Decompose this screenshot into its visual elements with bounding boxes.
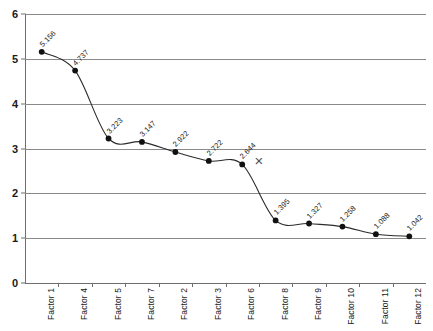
data-label: 3.223: [104, 115, 124, 135]
x-category-label: Factor 11: [380, 288, 390, 324]
x-category-label: Factor 5: [113, 288, 123, 320]
data-label: 3.147: [138, 119, 158, 139]
chart-overlay: 5.1564.7373.2233.1472.9222.7222.6441.395…: [0, 0, 433, 331]
data-label: 1.258: [338, 203, 358, 223]
x-category-label: Factor 3: [213, 288, 223, 320]
data-label: 1.395: [271, 197, 291, 217]
x-tick-mark: [125, 283, 126, 287]
x-tick-mark: [159, 283, 160, 287]
x-category-label: Factor 8: [280, 288, 290, 320]
x-category-label: Factor 10: [346, 288, 356, 325]
x-tick-mark: [393, 283, 394, 287]
x-tick-mark: [226, 283, 227, 287]
x-category-label: Factor 12: [413, 288, 423, 325]
x-category-label: Factor 6: [246, 288, 256, 320]
x-category-label: Factor 7: [146, 288, 156, 320]
x-category-label: Factor 2: [179, 288, 189, 320]
cutoff-x-mark: ×: [255, 153, 264, 168]
data-label: 2.922: [171, 129, 191, 149]
x-category-label: Factor 4: [79, 288, 89, 320]
x-tick-mark: [192, 283, 193, 287]
x-category-label: Factor 9: [313, 288, 323, 320]
x-tick-mark: [58, 283, 59, 287]
x-tick-mark: [292, 283, 293, 287]
data-label: 1.088: [372, 211, 392, 231]
data-label: 5.156: [38, 29, 58, 49]
x-tick-mark: [259, 283, 260, 287]
x-tick-mark: [326, 283, 327, 287]
x-tick-mark: [92, 283, 93, 287]
x-tick-mark: [359, 283, 360, 287]
data-label: 1.042: [405, 213, 425, 233]
scree-plot-chart: 0123456 5.1564.7373.2233.1472.9222.7222.…: [0, 0, 433, 331]
x-category-label: Factor 1: [46, 288, 56, 320]
data-label: 1.327: [305, 200, 325, 220]
data-label: 4.737: [71, 47, 91, 67]
data-label: 2.722: [205, 138, 225, 158]
